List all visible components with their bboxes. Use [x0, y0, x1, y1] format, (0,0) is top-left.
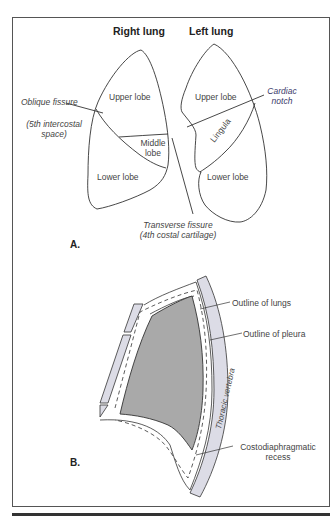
- oblique-fissure-note: (5th intercostal space): [20, 119, 88, 139]
- outline-of-pleura-label: Outline of pleura: [243, 329, 305, 339]
- cardiac-notch-line2: notch: [262, 96, 302, 106]
- outline-of-lungs-label: Outline of lungs: [232, 298, 291, 308]
- right-middle-lobe-label: Middle lobe: [135, 138, 171, 158]
- right-middle-lobe-line1: Middle: [135, 138, 171, 148]
- oblique-fissure-label: Oblique fissure: [21, 97, 78, 107]
- left-lung-heading: Left lung: [189, 26, 233, 36]
- transverse-fissure-line1: Transverse fissure: [128, 220, 228, 230]
- part-a-label: A.: [70, 240, 80, 250]
- lung-anatomy-diagram: [0, 0, 336, 516]
- right-lower-lobe-label: Lower lobe: [97, 172, 139, 182]
- transverse-fissure-line2: (4th costal cartilage): [128, 230, 228, 240]
- left-lower-lobe-label: Lower lobe: [207, 172, 249, 182]
- right-lung-heading: Right lung: [113, 26, 165, 36]
- cardiac-notch-line1: Cardiac: [262, 86, 302, 96]
- transverse-fissure-label: Transverse fissure (4th costal cartilage…: [128, 220, 228, 240]
- right-upper-lobe-label: Upper lobe: [109, 92, 151, 102]
- oblique-fissure-note-line2: space): [20, 129, 88, 139]
- cardiac-notch-label: Cardiac notch: [262, 86, 302, 106]
- oblique-fissure-note-line1: (5th intercostal: [20, 119, 88, 129]
- costodiaphragmatic-line1: Costodiaphragmatic: [232, 442, 324, 452]
- part-b-label: B.: [70, 458, 80, 468]
- right-middle-lobe-line2: lobe: [135, 148, 171, 158]
- costodiaphragmatic-recess-label: Costodiaphragmatic recess: [232, 442, 324, 462]
- left-upper-lobe-label: Upper lobe: [195, 92, 237, 102]
- costodiaphragmatic-line2: recess: [232, 452, 324, 462]
